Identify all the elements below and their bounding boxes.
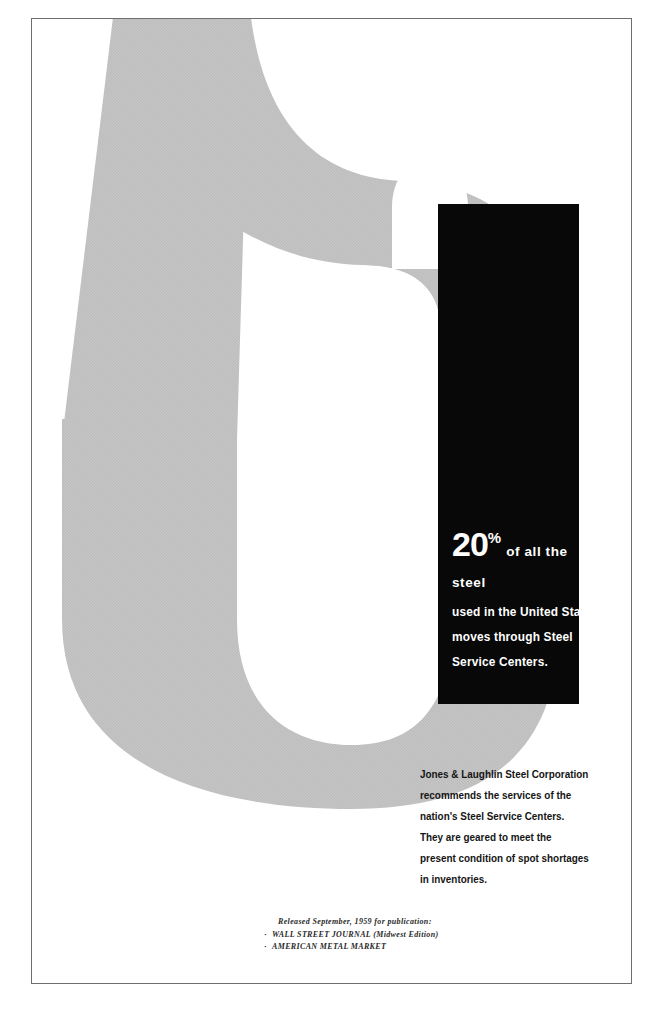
footer-credits: Released September, 1959 for publication… (264, 916, 554, 954)
s-inner-gap (237, 419, 352, 745)
body-copy: Jones & Laughlin Steel Corporation recom… (420, 764, 625, 890)
headline-block: 20%of all the steel used in the United S… (452, 529, 571, 674)
headline-line-1: 20%of all the steel (452, 529, 571, 598)
percent-number: 20 (452, 525, 488, 563)
percent-symbol: % (488, 529, 501, 546)
headline-line-3: moves through Steel (452, 624, 557, 649)
publication-name: AMERICAN METAL MARKET (272, 942, 386, 951)
headline-line-4: Service Centers. (452, 649, 557, 674)
publication-entry: ·AMERICAN METAL MARKET (264, 941, 554, 954)
publication-name: WALL STREET JOURNAL (Midwest Edition) (272, 930, 438, 939)
publication-entry: ·WALL STREET JOURNAL (Midwest Edition) (264, 929, 554, 942)
bullet-icon: · (264, 929, 272, 942)
body-line: recommends the services of the (420, 785, 605, 806)
black-headline-panel: 20%of all the steel used in the United S… (438, 204, 579, 704)
body-line: They are geared to meet the (420, 827, 605, 848)
s-white-notch-lower (332, 579, 372, 745)
headline-line-2: used in the United States (452, 599, 557, 624)
bullet-icon: · (264, 941, 272, 954)
release-note: Released September, 1959 for publication… (264, 916, 554, 929)
body-line: nation's Steel Service Centers. (420, 806, 605, 827)
body-line: Jones & Laughlin Steel Corporation (420, 764, 605, 785)
body-line: present condition of spot shortages (420, 848, 605, 869)
body-line: in inventories. (420, 869, 605, 890)
advertisement-page: 20%of all the steel used in the United S… (31, 18, 632, 984)
s-left-stroke (62, 19, 250, 439)
